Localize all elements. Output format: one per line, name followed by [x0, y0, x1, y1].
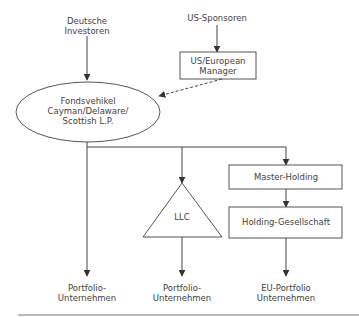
label-line: Cayman/Delaware/	[48, 106, 129, 116]
target-portfolio-1: Portfolio- Unternehmen	[58, 283, 116, 303]
fund-vehicle-label: Fondsvehikel Cayman/Delaware/ Scottish L…	[48, 96, 129, 126]
top-right-source-label: US-Sponsoren	[187, 13, 247, 23]
target-portfolio-2: Portfolio- Unternehmen	[153, 283, 211, 303]
label-line: Portfolio-	[153, 283, 211, 293]
label-line: Scottish L.P.	[48, 116, 129, 126]
dashed-arrow-manager-to-fund	[159, 79, 222, 96]
label-line: Investoren	[64, 26, 109, 36]
label-line: Unternehmen	[257, 293, 315, 303]
top-left-source-label: Deutsche Investoren	[64, 16, 109, 36]
label-line: Unternehmen	[58, 293, 116, 303]
llc-triangle	[143, 183, 222, 237]
label-line: Portfolio-	[58, 283, 116, 293]
label-line: Deutsche	[64, 16, 109, 26]
manager-label: US/European Manager	[191, 56, 246, 76]
label-line: Fondsvehikel	[48, 96, 129, 106]
label-line: EU-Portfolio	[257, 283, 315, 293]
label-line: Manager	[191, 66, 246, 76]
master-holding-label: Master-Holding	[254, 172, 318, 182]
holding-company-label: Holding-Gesellschaft	[242, 217, 330, 227]
label-line: Unternehmen	[153, 293, 211, 303]
structure-diagram	[0, 0, 359, 317]
target-eu-portfolio: EU-Portfolio Unternehmen	[257, 283, 315, 303]
llc-label: LLC	[174, 212, 189, 222]
label-line: US/European	[191, 56, 246, 66]
